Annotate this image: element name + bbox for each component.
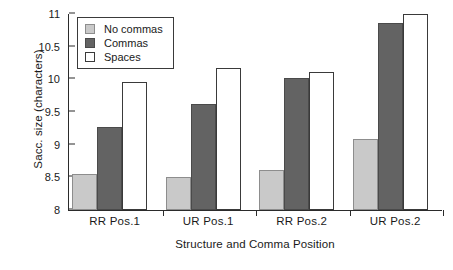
legend-item: Commas [85, 36, 163, 50]
bar [72, 174, 97, 210]
y-axis-tick-label: 10 [48, 73, 60, 85]
bar [216, 68, 241, 210]
bar-group [256, 14, 350, 210]
legend-item-label: No commas [104, 23, 163, 35]
x-axis-tick-label: RR Pos.1 [68, 215, 162, 227]
x-axis-tick-label: UR Pos.1 [162, 215, 256, 227]
bar [122, 82, 147, 210]
bar [284, 78, 309, 210]
legend-item: No commas [85, 22, 163, 36]
legend-item-label: Commas [104, 37, 148, 49]
bar [191, 104, 216, 210]
legend-swatch-icon [85, 52, 95, 62]
bar [353, 139, 378, 210]
legend-item: Spaces [85, 50, 163, 64]
bar [378, 23, 403, 211]
bar [166, 177, 191, 210]
bar [309, 72, 334, 210]
legend-swatch-icon [85, 38, 95, 48]
chart-legend: No commasCommasSpaces [77, 17, 174, 69]
y-axis-tick-label: 8 [54, 204, 60, 216]
y-axis-title: Sacc. size (characters) [32, 9, 44, 209]
y-axis-tick-label: 9 [54, 138, 60, 150]
legend-item-label: Spaces [104, 51, 141, 63]
bar [403, 14, 428, 210]
y-axis-tick-label: 9.5 [45, 106, 60, 118]
bar-group [163, 14, 257, 210]
y-axis-tick-label: 11 [49, 8, 60, 20]
bar [259, 170, 284, 210]
bar [97, 127, 122, 210]
x-axis-tick-label: UR Pos.2 [349, 215, 443, 227]
x-axis-title: Structure and Comma Position [68, 238, 442, 250]
legend-swatch-icon [85, 24, 95, 34]
x-axis-tick [443, 210, 444, 216]
y-axis-tick-label: 8.5 [45, 171, 60, 183]
x-axis-tick-label: RR Pos.2 [255, 215, 349, 227]
y-axis-tick-label: 10.5 [39, 40, 60, 52]
bar-group [350, 14, 444, 210]
bar-chart-figure: Sacc. size (characters) 1110.5109.598.58… [0, 0, 453, 270]
